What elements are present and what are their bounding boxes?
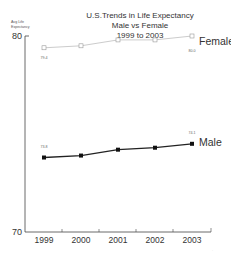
chart-subtitle-1: Male vs Female [112,21,169,30]
male-marker-1999 [42,156,46,160]
female-series-label: Female [199,35,231,47]
male-first-label: 73.8 [41,145,48,149]
female-last-label: 80.0 [189,49,196,53]
male-marker-2003 [190,142,194,146]
female-marker-2002 [153,38,157,42]
male-series-label: Male [199,136,222,148]
female-marker-2000 [79,44,83,48]
y-axis: 80 70 [12,31,29,237]
y-tick-70: 70 [12,227,22,237]
y-axis-label-2: Expectancy [11,25,30,29]
female-marker-2003 [190,34,194,38]
male-series [42,142,194,160]
x-tick-1999: 1999 [35,235,54,245]
male-marker-2001 [116,148,120,152]
corner-mark: · [212,249,213,253]
male-marker-2000 [79,154,83,158]
chart-title: U.S.Trends in Life Expectancy [86,11,193,20]
female-marker-1999 [42,46,46,50]
x-tick-2000: 2000 [72,235,91,245]
life-expectancy-chart: U.S.Trends in Life Expectancy Male vs Fe… [0,0,231,262]
y-axis-label-1: Avg Life [11,20,24,24]
x-tick-2002: 2002 [146,235,165,245]
female-first-label: 79.4 [41,56,48,60]
x-axis: 1999 2000 2001 2002 2003 [25,228,211,245]
series-layer [42,34,194,160]
male-marker-2002 [153,146,157,150]
y-tick-80: 80 [12,31,22,41]
male-last-label: 74.1 [189,131,196,135]
x-tick-2001: 2001 [109,235,128,245]
x-tick-2003: 2003 [183,235,202,245]
female-marker-2001 [116,38,120,42]
